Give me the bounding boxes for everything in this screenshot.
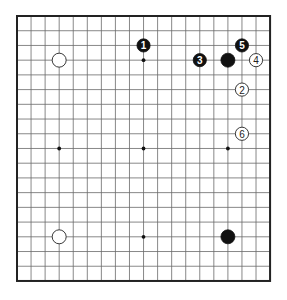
move-number: 3 [197, 55, 203, 66]
move-number: 6 [239, 129, 245, 140]
black-stone[interactable] [221, 230, 235, 244]
star-point [142, 147, 146, 151]
go-board[interactable]: 123456 [0, 0, 287, 300]
black-stone-icon [221, 53, 235, 67]
move-number: 1 [141, 40, 147, 51]
white-stone[interactable] [52, 230, 66, 244]
white-stone-icon [52, 230, 66, 244]
white-stone[interactable] [52, 53, 66, 67]
black-stone-move-3[interactable]: 3 [193, 54, 206, 67]
white-stone-move-6[interactable]: 6 [235, 127, 248, 140]
move-number: 5 [239, 40, 245, 51]
star-point [226, 147, 230, 151]
move-number: 4 [253, 55, 259, 66]
black-stone-move-1[interactable]: 1 [137, 39, 150, 52]
black-stone-move-5[interactable]: 5 [235, 39, 248, 52]
black-stone[interactable] [221, 53, 235, 67]
star-point [142, 235, 146, 239]
star-point [142, 58, 146, 62]
black-stone-icon [221, 230, 235, 244]
white-stone-move-2[interactable]: 2 [235, 83, 248, 96]
white-stone-icon [52, 53, 66, 67]
star-point [57, 147, 61, 151]
move-number: 2 [239, 85, 245, 96]
white-stone-move-4[interactable]: 4 [249, 54, 262, 67]
